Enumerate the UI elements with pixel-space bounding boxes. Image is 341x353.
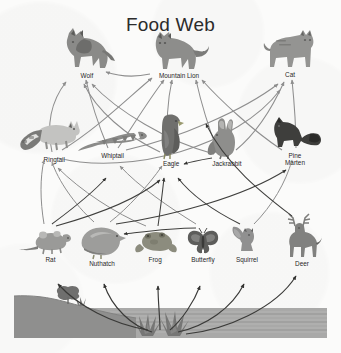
food-web-diagram: Food Web: [0, 0, 341, 353]
lower-arrow-layer: [0, 0, 341, 353]
